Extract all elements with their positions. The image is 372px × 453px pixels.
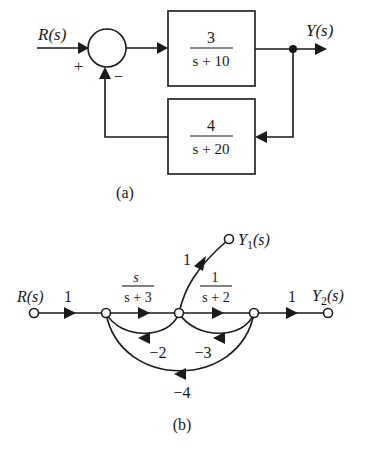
loop-minus4-gain: −4 [173,384,190,401]
node-2 [175,309,184,318]
loop-minus3-gain: −3 [194,344,211,361]
arrow-icon [157,42,168,54]
g1-denominator: s + 3 [124,290,151,305]
sum-minus-sign: − [114,68,123,85]
node-1 [102,309,111,318]
output2-gain: 1 [288,288,296,305]
arrow-icon [174,368,186,380]
loop-minus4 [106,313,254,371]
summing-junction [88,29,126,67]
node-3 [250,309,259,318]
sum-plus-sign: + [74,58,83,75]
forward-block-numerator: 3 [207,29,215,46]
g2-denominator: s + 2 [202,290,229,305]
diagram-canvas: R(s) + − 3 s + 10 Y(s) 4 s + 20 (a) [0,0,372,453]
block-diagram-a: R(s) + − 3 s + 10 Y(s) 4 s + 20 (a) [37,11,334,202]
output2-label-arg: (s) [327,287,344,305]
arrow-icon [64,307,76,319]
output2-label: Y2(s) [312,287,344,308]
output1-label-arg: (s) [253,231,270,249]
g2-numerator: 1 [212,270,219,285]
node-output1 [225,235,234,244]
arrow-icon [194,256,206,271]
feedback-block-numerator: 4 [207,117,215,134]
node-output2 [324,309,333,318]
feedback-block-denominator: s + 20 [193,141,230,157]
g1-numerator: s [133,270,139,285]
input-label: R(s) [37,25,67,44]
arrow-icon [315,43,327,55]
caption-a: (a) [116,184,134,202]
arrow-icon [138,307,150,319]
forward-block-denominator: s + 10 [193,53,230,69]
node-input [30,309,39,318]
input-label-b: R(s) [16,288,44,306]
input-gain: 1 [64,288,72,305]
output1-label: Y1(s) [238,231,270,252]
output1-gain: 1 [183,251,191,268]
arrow-icon [255,131,267,143]
feedback-line-right [260,49,293,137]
loop-minus2-gain: −2 [149,344,166,361]
output-label: Y(s) [306,21,334,40]
caption-b: (b) [173,416,192,434]
signal-flow-graph-b: R(s) 1 s s + 3 1 s + 2 1 1 Y1(s) Y2(s) −… [16,231,344,434]
arrow-icon [212,307,224,319]
arrow-icon [286,307,298,319]
arrow-icon [99,67,111,79]
